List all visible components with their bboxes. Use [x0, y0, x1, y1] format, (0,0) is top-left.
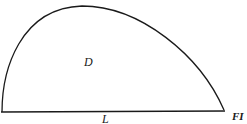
base-line-L — [1, 111, 225, 112]
region-boundary-curve — [2, 6, 224, 112]
region-label-d: D — [84, 56, 93, 68]
figure-caption: FI — [232, 111, 244, 122]
base-label-l: L — [102, 113, 109, 124]
diagram-canvas — [0, 0, 247, 124]
